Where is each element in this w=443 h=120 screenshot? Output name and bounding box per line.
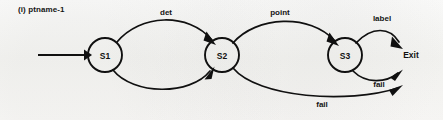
transition-s1-s2-det[interactable] (117, 20, 216, 45)
edge-label-point: point (270, 8, 290, 17)
state-label-s2: S2 (217, 51, 228, 61)
terminal-label-exit: Exit (403, 50, 419, 60)
transition-s3-exit-label[interactable] (356, 31, 403, 50)
edge-label-fail-s2: fail (316, 100, 328, 109)
state-diagram-graphic: det point label fail fail (0, 0, 443, 120)
figure-canvas: (i) ptname-1 det point label (0, 0, 443, 120)
state-label-s1: S1 (100, 51, 111, 61)
state-node-s2[interactable]: S2 (205, 38, 239, 72)
transition-s1-s2-unlabeled[interactable] (113, 67, 215, 90)
start-arrow (38, 50, 92, 61)
state-node-s3[interactable]: S3 (328, 38, 362, 72)
state-node-s1[interactable]: S1 (88, 38, 122, 72)
edge-label-fail-s3: fail (373, 80, 385, 89)
state-label-s3: S3 (340, 51, 351, 61)
edge-label-det: det (160, 8, 172, 17)
edge-label-label: label (373, 14, 391, 23)
transition-s2-s3-point[interactable] (233, 21, 339, 46)
